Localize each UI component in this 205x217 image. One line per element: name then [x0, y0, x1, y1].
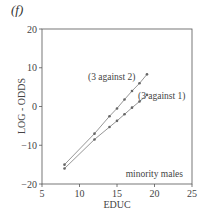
y-tick-label: −20 [21, 179, 37, 190]
y-tick-label: 20 [27, 24, 37, 35]
x-tick-label: 25 [187, 188, 197, 199]
plot-frame [42, 29, 192, 184]
data-point [116, 107, 119, 110]
data-point [93, 132, 96, 135]
y-tick-label: −10 [21, 140, 37, 151]
y-axis-title: LOG - ODDS [16, 78, 27, 134]
log-odds-chart: 510152025−20−1001020 EDUC LOG - ODDS (3 … [0, 0, 205, 217]
data-point [123, 113, 126, 116]
data-point [123, 98, 126, 101]
data-point [63, 163, 66, 166]
x-axis-title: EDUC [103, 199, 131, 210]
data-point [138, 82, 141, 85]
annotation-minority-males: minority males [126, 169, 184, 179]
data-point [116, 120, 119, 123]
data-point [131, 90, 134, 93]
x-tick-label: 5 [40, 188, 45, 199]
data-point [108, 115, 111, 118]
x-tick-label: 15 [112, 188, 122, 199]
data-series [63, 73, 148, 170]
data-point [131, 106, 134, 109]
data-point [63, 167, 66, 170]
data-point [146, 73, 149, 76]
series-line-1 [65, 74, 148, 164]
series-line-2 [65, 95, 148, 169]
data-point [93, 138, 96, 141]
annotation-3-against-1: (3 against 1) [138, 91, 186, 102]
x-tick-label: 20 [150, 188, 160, 199]
annotation-3-against-2: (3 against 2) [88, 72, 136, 83]
plot-border [42, 29, 192, 184]
y-tick-label: 10 [27, 62, 37, 73]
y-tick-label: 0 [32, 101, 37, 112]
data-point [108, 126, 111, 129]
x-tick-label: 10 [75, 188, 85, 199]
